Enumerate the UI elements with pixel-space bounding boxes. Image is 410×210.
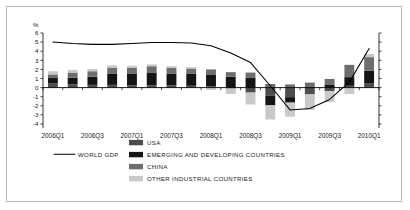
gdp-contribution-chart: 6543210-1-2-3-4%2006Q12006Q32007Q12007Q3…	[7, 7, 403, 203]
bar-group	[87, 69, 97, 88]
bar-segment	[246, 78, 256, 88]
bar-segment	[364, 57, 374, 71]
y-tick-label: 3	[35, 57, 39, 64]
bar-group	[107, 65, 117, 87]
x-axis-label: 2010Q1	[358, 132, 381, 140]
bar-segment	[147, 64, 157, 66]
bar-group	[285, 84, 295, 116]
bar-segment	[186, 73, 196, 85]
bar-segment	[285, 84, 295, 87]
bar-segment	[246, 73, 256, 78]
y-tick-label: 1	[35, 75, 39, 82]
x-axis-label: 2008Q3	[239, 132, 262, 140]
x-axis-label: 2008Q1	[200, 132, 223, 140]
bar-segment	[127, 74, 137, 85]
bar-segment	[48, 74, 58, 78]
bar-segment	[305, 94, 315, 109]
y-tick-label: -4	[33, 120, 39, 127]
legend-label: EMERGING AND DEVELOPING COUNTRIES	[147, 151, 285, 158]
bar-segment	[186, 67, 196, 68]
bar-segment	[305, 88, 315, 95]
bar-segment	[285, 88, 295, 98]
bar-group	[48, 71, 58, 87]
x-axis-label: 2007Q1	[121, 132, 144, 140]
bar-segment	[48, 78, 58, 83]
bar-segment	[68, 78, 78, 85]
bar-group	[226, 72, 236, 94]
y-tick-label: -2	[33, 102, 39, 109]
bar-segment	[127, 68, 137, 74]
bar-segment	[305, 83, 315, 88]
bar-group	[167, 66, 177, 87]
bar-segment	[167, 66, 177, 68]
bar-segment	[147, 73, 157, 85]
bar-segment	[68, 84, 78, 87]
bar-segment	[87, 71, 97, 76]
usa-swatch	[129, 140, 143, 145]
bar-segment	[127, 66, 137, 68]
legend-label: CHINA	[147, 163, 168, 170]
bar-segment	[246, 88, 256, 93]
x-axis-label: 2006Q1	[42, 132, 65, 140]
bar-segment	[48, 84, 58, 88]
bar-segment	[265, 96, 275, 106]
bar-group	[305, 83, 315, 110]
x-axis-label: 2007Q3	[160, 132, 183, 140]
bar-segment	[325, 88, 335, 92]
legend-label: OTHER INDUSTRIAL COUNTRIES	[147, 175, 253, 182]
x-axis-label: 2009Q1	[279, 132, 302, 140]
chart-svg: 6543210-1-2-3-4%2006Q12006Q32007Q12007Q3…	[7, 7, 403, 203]
y-tick-label: 0	[35, 84, 39, 91]
bar-segment	[344, 88, 354, 94]
bar-segment	[246, 93, 256, 105]
bar-segment	[206, 74, 216, 86]
x-axis-label: 2006Q3	[81, 132, 104, 140]
bar-group	[364, 54, 374, 88]
bar-group	[186, 67, 196, 87]
bar-group	[325, 79, 335, 102]
bar-group	[206, 69, 216, 89]
bar-segment	[68, 73, 78, 78]
world-gdp-legend-label: WORLD GDP	[78, 151, 119, 158]
bar-segment	[87, 69, 97, 71]
y-tick-label: -1	[33, 93, 39, 100]
bar-segment	[364, 83, 374, 88]
bar-segment	[186, 68, 196, 73]
bar-group	[127, 66, 137, 88]
bar-segment	[107, 65, 117, 67]
bar-segment	[167, 73, 177, 85]
bar-segment	[325, 84, 335, 87]
bar-segment	[107, 74, 117, 85]
legend-label: USA	[147, 139, 161, 146]
bar-segment	[364, 71, 374, 83]
y-tick-label: 5	[35, 38, 39, 45]
other-industrial-swatch	[129, 176, 143, 181]
bar-segment	[265, 88, 275, 96]
y-tick-label: 4	[35, 47, 39, 54]
bar-segment	[226, 89, 236, 94]
bar-segment	[167, 68, 177, 73]
china-swatch	[129, 164, 143, 169]
bar-segment	[68, 70, 78, 73]
emerging-swatch	[129, 152, 143, 157]
chart-frame: 6543210-1-2-3-4%2006Q12006Q32007Q12007Q3…	[6, 6, 402, 202]
bar-segment	[226, 77, 236, 88]
bar-segment	[147, 66, 157, 73]
bar-segment	[48, 71, 58, 74]
y-axis-unit-label: %	[33, 21, 39, 28]
y-tick-label: -3	[33, 111, 39, 118]
bar-segment	[226, 72, 236, 77]
bar-group	[246, 73, 256, 105]
y-tick-label: 6	[35, 29, 39, 36]
bar-segment	[87, 77, 97, 85]
y-tick-label: 2	[35, 66, 39, 73]
x-axis-label: 2009Q3	[318, 132, 341, 140]
bar-segment	[285, 97, 295, 102]
bar-segment	[325, 79, 335, 84]
bar-group	[147, 64, 157, 87]
bar-segment	[107, 68, 117, 74]
bar-group	[344, 65, 354, 94]
bar-group	[68, 70, 78, 88]
bar-segment	[265, 105, 275, 119]
bar-segment	[206, 69, 216, 74]
